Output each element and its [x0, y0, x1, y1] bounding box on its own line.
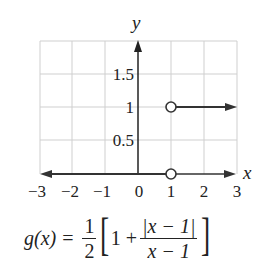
- x-tick-label: 3: [233, 182, 242, 201]
- y-tick-label: 1.5: [113, 65, 134, 84]
- arrow-right-icon: [224, 170, 236, 178]
- graph: y x 1.5 1 0.5 −3 −2 −1 0 1 2 3: [0, 0, 263, 210]
- open-circle-point: [166, 169, 176, 179]
- function-formula: g(x) = 1 2 [ 1 + |x − 1| x − 1 ]: [24, 212, 244, 264]
- fraction-half: 1 2: [82, 216, 96, 261]
- curve-upper-branch: [166, 102, 237, 112]
- arrow-right-icon: [225, 103, 237, 111]
- open-circle-point: [166, 102, 176, 112]
- y-tick-label: 1: [126, 98, 135, 117]
- fraction-numerator: 1: [82, 216, 96, 239]
- left-bracket-icon: [: [101, 212, 110, 258]
- x-tick-label: −3: [28, 182, 46, 201]
- x-tick-label: 1: [167, 182, 176, 201]
- x-tick-label: 0: [135, 182, 144, 201]
- y-tick-label: 0.5: [113, 131, 134, 150]
- x-tick-label: −2: [61, 182, 79, 201]
- arrow-up-icon: [134, 40, 142, 52]
- formula-lhs: g(x): [24, 227, 56, 250]
- fraction-denominator: 2: [84, 239, 94, 261]
- y-axis-label: y: [130, 12, 141, 33]
- right-bracket-icon: ]: [202, 212, 211, 258]
- x-tick-label: −1: [93, 182, 111, 201]
- x-tick-label: 2: [200, 182, 209, 201]
- fraction-numerator: |x − 1|: [140, 216, 197, 239]
- fraction-denominator: x − 1: [148, 239, 190, 261]
- x-axis-label: x: [242, 162, 252, 183]
- fraction-abs: |x − 1| x − 1: [140, 216, 197, 261]
- formula-one-plus: 1 +: [111, 227, 137, 250]
- formula-equals: =: [62, 227, 73, 250]
- arrow-left-icon: [40, 170, 52, 178]
